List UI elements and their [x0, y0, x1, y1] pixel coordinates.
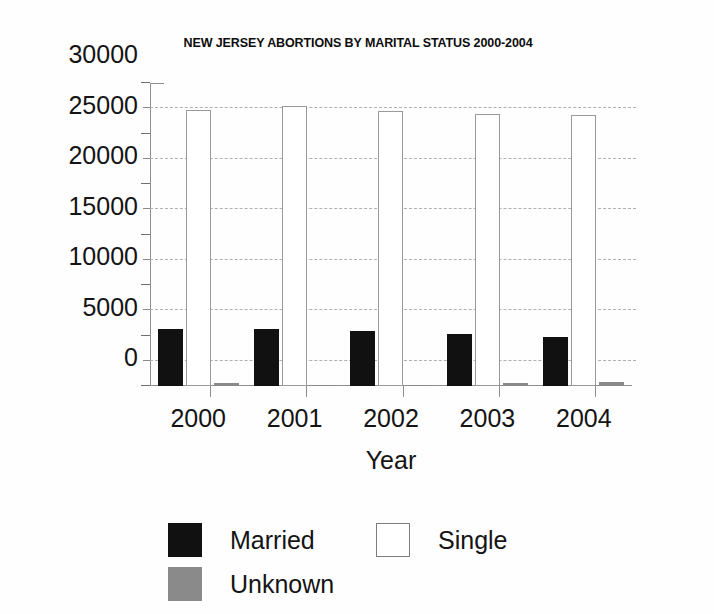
y-axis-minor-tick	[143, 360, 150, 361]
bar-married-2002	[350, 331, 375, 386]
bar-unknown-2004	[599, 382, 624, 386]
legend-row-1: Married Single	[168, 518, 588, 562]
x-axis-label-2002: 2002	[363, 404, 419, 433]
bar-single-2001	[282, 106, 307, 386]
bar-married-2000	[158, 329, 183, 386]
legend-swatch-single-icon	[376, 523, 410, 557]
bar-unknown-2002	[406, 385, 431, 387]
chart-legend: Married Single Unknown	[168, 518, 588, 606]
y-axis-tick	[141, 183, 150, 184]
bar-group	[343, 83, 439, 386]
legend-item-unknown: Unknown	[168, 567, 376, 601]
bar-single-2000	[186, 110, 211, 386]
x-axis-tick	[595, 386, 596, 397]
bar-married-2003	[447, 334, 472, 386]
x-axis-tick	[210, 386, 211, 397]
x-axis-title: Year	[150, 446, 632, 475]
y-axis-tick	[141, 82, 150, 83]
x-axis-label-2003: 2003	[460, 404, 516, 433]
x-axis-tick	[306, 386, 307, 397]
y-axis-tick	[141, 234, 150, 235]
y-axis-minor-tick	[143, 208, 150, 209]
y-axis-minor-tick	[143, 107, 150, 108]
chart-title: NEW JERSEY ABORTIONS BY MARITAL STATUS 2…	[118, 36, 598, 50]
bar-married-2001	[254, 329, 279, 386]
y-axis-label: 0	[0, 343, 138, 372]
bar-single-2002	[378, 111, 403, 386]
legend-row-2: Unknown	[168, 562, 588, 606]
y-axis-label: 30000	[0, 40, 138, 69]
y-axis-tick	[141, 385, 150, 386]
y-axis-tick	[141, 335, 150, 336]
bar-group	[439, 83, 535, 386]
x-axis-label-2001: 2001	[267, 404, 323, 433]
legend-swatch-unknown-icon	[168, 567, 202, 601]
legend-item-single: Single	[376, 523, 508, 557]
y-axis-minor-tick	[143, 158, 150, 159]
x-axis-tick	[403, 386, 404, 397]
bar-single-2004	[571, 115, 596, 386]
y-axis-minor-tick	[143, 259, 150, 260]
legend-label-unknown: Unknown	[230, 570, 334, 599]
y-axis-label: 10000	[0, 242, 138, 271]
y-axis-label: 20000	[0, 141, 138, 170]
bar-single-2003	[475, 114, 500, 386]
legend-label-single: Single	[438, 526, 508, 555]
bar-unknown-2003	[503, 383, 528, 386]
bar-group	[536, 83, 632, 386]
legend-label-married: Married	[230, 526, 315, 555]
bar-unknown-2001	[310, 385, 335, 387]
legend-swatch-married-icon	[168, 523, 202, 557]
bar-group	[246, 83, 342, 386]
legend-item-married: Married	[168, 523, 376, 557]
bar-group	[150, 83, 246, 386]
plot-area: 050001000015000200002500030000 200020012…	[150, 83, 632, 386]
y-axis-label: 25000	[0, 90, 138, 119]
y-axis-tick	[141, 284, 150, 285]
y-axis-label: 5000	[0, 292, 138, 321]
chart-page: NEW JERSEY ABORTIONS BY MARITAL STATUS 2…	[0, 0, 714, 614]
x-axis-label-2000: 2000	[170, 404, 226, 433]
y-axis-label: 15000	[0, 191, 138, 220]
x-axis-label-2004: 2004	[556, 404, 612, 433]
x-axis-tick	[499, 386, 500, 397]
bar-unknown-2000	[214, 383, 239, 386]
y-axis-tick	[141, 133, 150, 134]
bar-married-2004	[543, 337, 568, 386]
y-axis-minor-tick	[143, 309, 150, 310]
